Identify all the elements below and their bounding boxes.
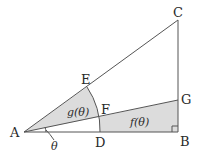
label-f-theta: f(θ) <box>129 116 149 129</box>
label-F: F <box>101 102 110 117</box>
label-E: E <box>81 72 91 87</box>
label-g-theta: g(θ) <box>67 106 89 119</box>
label-G: G <box>181 92 191 107</box>
label-theta: θ <box>51 140 58 153</box>
label-C: C <box>173 5 183 20</box>
label-B: B <box>180 134 190 149</box>
label-D: D <box>95 135 105 150</box>
label-A: A <box>9 125 20 140</box>
triangle-diagram: A B C D E F G g(θ) f(θ) θ <box>0 0 197 154</box>
